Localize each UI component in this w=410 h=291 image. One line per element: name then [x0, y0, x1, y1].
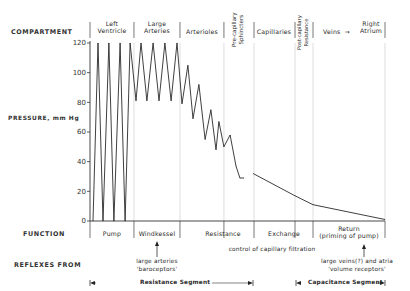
pressure-point [253, 173, 254, 174]
return-line2: (priming of pump) [319, 232, 379, 239]
reflex-baroceptors: large arteries 'baroceptors' [136, 257, 178, 273]
y-tick-label: 20 [77, 188, 86, 196]
pressure-point [193, 118, 194, 119]
volume-line1: large veins(?) and atria [321, 257, 393, 265]
y-tick-label: 120 [73, 39, 86, 47]
pressure-point [103, 221, 104, 222]
y-tick-label: 0 [82, 217, 86, 225]
pressure-point [216, 150, 217, 151]
y-tick-label: 60 [77, 128, 86, 136]
compartment-line2: Capillaries [257, 28, 291, 35]
volume-receptor-arrow-icon-head [362, 244, 366, 249]
reflex-volume-receptors: large veins(?) and atria 'volume recepto… [321, 257, 393, 273]
baro-line1: large arteries [136, 257, 178, 265]
pressure-point [159, 101, 160, 102]
pressure-point [236, 166, 237, 167]
return-line1: Return [319, 225, 379, 232]
volume-line2: 'volume receptors' [321, 265, 393, 273]
compartment-veins: Veins → [323, 28, 350, 35]
pressure-point [165, 43, 166, 44]
pressure-point [177, 43, 178, 44]
compartment-line1: Post-capillary [296, 15, 303, 50]
compartment-postcapillary-resistance: Post-capillary Resistance [296, 15, 309, 50]
pressure-point [211, 109, 212, 110]
compartment-line2: Sphincters [238, 12, 245, 47]
y-tick-label: 100 [73, 69, 86, 77]
pressure-point [136, 101, 137, 102]
pressure-curve [93, 43, 386, 222]
pressure-point [205, 139, 206, 140]
compartment-dividers [90, 22, 385, 238]
pressure-point [188, 65, 189, 66]
compartment-line1: Pre-capillary [231, 12, 238, 47]
baroceptor-arrow-icon-head [155, 241, 159, 246]
compartment-line1: Left [98, 20, 127, 27]
compartment-large-arteries: Large Arteries [144, 20, 170, 34]
compartment-line2: Arterioles [186, 28, 218, 35]
pressure-point [171, 101, 172, 102]
function-pump: Pump [103, 230, 121, 237]
pressure-point [219, 121, 220, 122]
compartment-line1: Large [144, 20, 170, 27]
compartment-right-atrium: Right Atrium [360, 20, 382, 34]
pressure-point [313, 204, 314, 205]
y-tick-label: 40 [77, 158, 86, 166]
pressure-point [120, 43, 121, 44]
compartment-line2: Veins [323, 28, 340, 35]
compartment-precapillary-sphincters: Pre-capillary Sphincters [231, 12, 244, 47]
compartment-capillaries: Capillaries [257, 28, 291, 35]
row-label-function: FUNCTION [23, 230, 65, 238]
compartment-line2: Ventricle [98, 27, 127, 34]
compartment-line2: Arteries [144, 27, 170, 34]
pressure-point [93, 221, 94, 222]
function-windkessel: Windkessel [139, 230, 176, 237]
veins-arrow-icon: → [345, 28, 350, 35]
row-label-pressure: PRESSURE, mm Hg [8, 115, 79, 121]
pressure-point [109, 43, 110, 44]
compartment-line1: Right [360, 20, 382, 27]
row-label-reflexes: REFLEXES FROM [14, 261, 81, 269]
reflex-capillary-filtration: control of capillary filtration [229, 246, 316, 252]
pressure-series-line [253, 174, 385, 220]
pressure-point [114, 221, 115, 222]
compartment-line2: Atrium [360, 27, 382, 34]
compartment-line2: Resistance [303, 15, 310, 50]
function-resistance: Resistance [205, 230, 240, 237]
compartment-arterioles: Arterioles [186, 28, 218, 35]
y-tick-label: 80 [77, 99, 86, 107]
pressure-point [244, 178, 245, 179]
baro-line2: 'baroceptors' [136, 265, 178, 273]
compartment-left-ventricle: Left Ventricle [98, 20, 127, 34]
pressure-point [385, 219, 386, 220]
pressure-series-line [93, 43, 244, 221]
function-exchange: Exchange [268, 230, 300, 237]
pressure-point [125, 221, 126, 222]
pressure-point [98, 43, 99, 44]
pressure-point [224, 147, 225, 148]
pressure-point [147, 101, 148, 102]
pressure-point [295, 195, 296, 196]
pressure-point [141, 43, 142, 44]
resistance-segment-arrow-icon-start-head [90, 281, 95, 285]
pressure-point [199, 84, 200, 85]
pressure-point [130, 43, 131, 44]
pressure-point [230, 135, 231, 136]
segment-resistance-label: Resistance Segment [140, 279, 210, 285]
pressure-point [182, 104, 183, 105]
function-return: Return (priming of pump) [319, 225, 379, 239]
pressure-point [240, 178, 241, 179]
pressure-diagram: 020406080100120 [0, 0, 410, 291]
resistance-segment-arrow-icon-end-head [248, 281, 253, 285]
pressure-point [153, 43, 154, 44]
row-label-compartment: COMPARTMENT [11, 28, 73, 36]
segment-capacitance-label: Capacitance Segment [308, 279, 383, 285]
